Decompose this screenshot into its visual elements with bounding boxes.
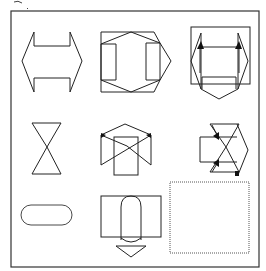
cell-2-3-bowtie-arrows (200, 124, 248, 176)
cell-1-1-double-arrow (22, 32, 82, 92)
cell-1-2-square-hexagon (101, 32, 171, 92)
cell-3-1-pill (21, 205, 72, 225)
cell-2-2-house-cross (101, 124, 151, 175)
cell-1-3-pentagon-arrows (191, 27, 250, 99)
cell-2-1-hourglass (32, 123, 61, 174)
cell-3-2-capsule-arrow (101, 196, 161, 257)
outer-frame (11, 11, 259, 267)
corner-mark (14, 1, 28, 9)
cell-3-3-answer-box (170, 182, 249, 253)
puzzle-figure (0, 0, 266, 271)
